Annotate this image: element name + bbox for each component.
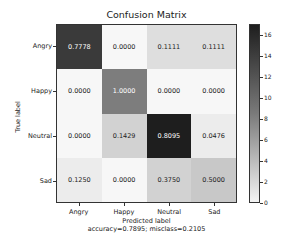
y-tick-label: Neutral — [28, 132, 52, 140]
matrix-cell: 0.0000 — [147, 69, 192, 113]
x-tick — [169, 203, 170, 206]
colorbar-tick — [260, 56, 263, 57]
x-tick — [124, 203, 125, 206]
colorbar-tick-label: 8 — [264, 115, 268, 122]
matrix-cell: 0.0000 — [57, 114, 102, 158]
y-tick — [53, 181, 56, 182]
colorbar-tick — [260, 203, 263, 204]
colorbar-tick — [260, 182, 263, 183]
y-tick-label: Angry — [33, 42, 52, 50]
y-tick — [53, 91, 56, 92]
x-tick — [214, 203, 215, 206]
matrix-cell: 0.1250 — [57, 158, 102, 202]
y-axis-label: True label — [14, 97, 22, 137]
matrix-cell: 0.1111 — [191, 25, 236, 69]
matrix-cell: 0.1111 — [147, 25, 192, 69]
colorbar-tick-label: 2 — [264, 178, 268, 185]
colorbar-tick — [260, 77, 263, 78]
y-tick — [53, 46, 56, 47]
colorbar-tick — [260, 161, 263, 162]
colorbar-tick-label: 4 — [264, 157, 268, 164]
y-tick-label: Happy — [31, 87, 52, 95]
y-tick — [53, 136, 56, 137]
matrix-cell: 0.8095 — [147, 114, 192, 158]
matrix-cell: 0.1429 — [102, 114, 147, 158]
colorbar-tick-label: 0 — [264, 199, 268, 206]
colorbar-tick — [260, 119, 263, 120]
matrix-cell: 0.0000 — [102, 25, 147, 69]
matrix-cell: 0.0000 — [57, 69, 102, 113]
colorbar-tick-label: 10 — [264, 94, 272, 101]
colorbar-tick-label: 14 — [264, 52, 272, 59]
colorbar-tick — [260, 140, 263, 141]
matrix-cell: 1.0000 — [102, 69, 147, 113]
colorbar — [249, 24, 260, 203]
colorbar-tick — [260, 35, 263, 36]
matrix-cell: 0.0000 — [102, 158, 147, 202]
colorbar-tick-label: 6 — [264, 136, 268, 143]
colorbar-tick-label: 16 — [264, 31, 272, 38]
x-axis-label: Predicted label — [56, 217, 237, 225]
chart-title: Confusion Matrix — [56, 9, 237, 20]
x-tick-label: Neutral — [147, 208, 192, 216]
matrix-cell: 0.3750 — [147, 158, 192, 202]
colorbar-tick-label: 12 — [264, 73, 272, 80]
accuracy-label: accuracy=0.7895; misclass=0.2105 — [56, 225, 237, 233]
x-tick-label: Happy — [101, 208, 146, 216]
x-tick-label: Angry — [56, 208, 101, 216]
x-tick — [79, 203, 80, 206]
colorbar-tick — [260, 98, 263, 99]
matrix-cell: 0.5000 — [191, 158, 236, 202]
confusion-matrix: 0.77780.00000.11110.11110.00001.00000.00… — [56, 24, 237, 203]
x-tick-label: Sad — [192, 208, 237, 216]
y-tick-label: Sad — [40, 177, 52, 185]
matrix-cell: 0.0476 — [191, 114, 236, 158]
matrix-cell: 0.0000 — [191, 69, 236, 113]
matrix-cell: 0.7778 — [57, 25, 102, 69]
